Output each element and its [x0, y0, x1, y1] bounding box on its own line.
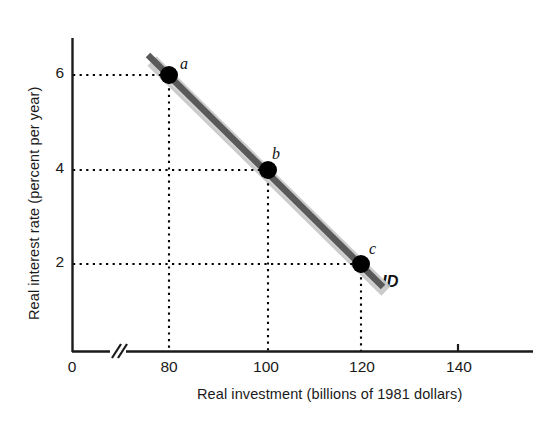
gridlines-vertical [169, 75, 361, 351]
plot-area [0, 0, 559, 426]
data-point-b [259, 161, 277, 179]
investment-demand-chart: Real interest rate (percent per year) Re… [0, 0, 559, 426]
data-point-c [352, 255, 370, 273]
x-axis-break-icon [110, 344, 127, 358]
data-point-a [160, 66, 178, 84]
gridlines-horizontal [73, 75, 361, 264]
